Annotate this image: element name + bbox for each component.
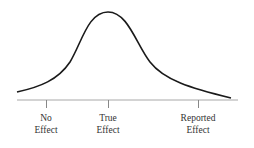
label-no-effect-line1: No — [16, 112, 76, 124]
label-reported-effect-line2: Effect — [168, 124, 228, 136]
label-no-effect: No Effect — [16, 112, 76, 136]
label-reported-effect-line1: Reported — [168, 112, 228, 124]
bell-curve — [17, 12, 231, 98]
label-reported-effect: Reported Effect — [168, 112, 228, 136]
label-true-effect: True Effect — [78, 112, 138, 136]
label-true-effect-line1: True — [78, 112, 138, 124]
label-no-effect-line2: Effect — [16, 124, 76, 136]
label-true-effect-line2: Effect — [78, 124, 138, 136]
